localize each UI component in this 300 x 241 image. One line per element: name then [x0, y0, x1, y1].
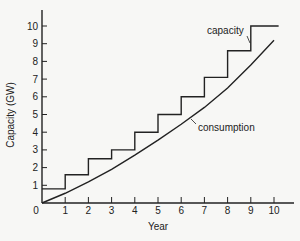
y-tick-label: 1 [32, 180, 38, 191]
x-tick-label: 3 [109, 205, 115, 216]
y-tick-label: 3 [32, 144, 38, 155]
y-tick-label: 7 [32, 74, 38, 85]
capacity-leader [247, 36, 250, 43]
capacity-consumption-chart: 12345678910 12345678910 0 Year Capacity … [0, 0, 300, 241]
x-tick-label: 1 [62, 205, 68, 216]
y-tick-label: 9 [32, 38, 38, 49]
y-axis-label: Capacity (GW) [5, 82, 16, 148]
y-tick-label: 6 [32, 91, 38, 102]
y-tick-label: 2 [32, 162, 38, 173]
x-tick-label: 6 [178, 205, 184, 216]
y-ticks: 12345678910 [27, 21, 47, 191]
y-tick-label: 8 [32, 56, 38, 67]
y-tick-label: 10 [27, 21, 39, 32]
x-tick-label: 8 [225, 205, 231, 216]
x-tick-label: 4 [132, 205, 138, 216]
y-tick-label: 5 [32, 109, 38, 120]
origin-label: 0 [33, 205, 39, 216]
consumption-annotation: consumption [198, 122, 255, 133]
x-tick-label: 10 [268, 205, 280, 216]
x-axis-label: Year [148, 221, 169, 232]
y-tick-label: 4 [32, 127, 38, 138]
consumption-leader [191, 119, 196, 124]
x-tick-label: 5 [155, 205, 161, 216]
x-tick-label: 2 [86, 205, 92, 216]
x-tick-label: 9 [248, 205, 254, 216]
x-tick-label: 7 [202, 205, 208, 216]
capacity-series [42, 26, 279, 189]
capacity-annotation: capacity [207, 25, 244, 36]
x-ticks: 12345678910 [62, 197, 280, 216]
